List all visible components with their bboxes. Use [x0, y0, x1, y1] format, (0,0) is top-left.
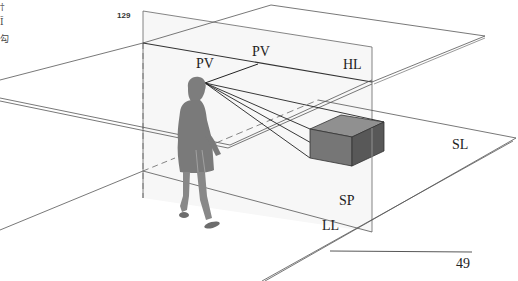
label-pv-top: PV	[252, 45, 270, 59]
margin-glyph-2: Ī	[0, 17, 4, 27]
label-sp: SP	[339, 194, 355, 208]
margin-glyph-1: †	[0, 2, 5, 12]
horizon-plane-right-edge	[372, 36, 485, 82]
figure-number: 129	[117, 11, 130, 20]
horizon-plane-left-edge	[0, 43, 143, 80]
label-hl: HL	[343, 58, 362, 72]
perspective-diagram: 129 † Ī 勾 PV PV HL SL SP LL 49	[0, 0, 518, 281]
label-pv-left: PV	[196, 57, 214, 71]
diagram-canvas	[0, 0, 518, 281]
label-ll: LL	[322, 219, 339, 233]
margin-glyph-3: 勾	[0, 32, 9, 45]
page-rule	[330, 251, 472, 252]
label-sl: SL	[452, 138, 468, 152]
ground-plane-left-edge	[0, 171, 143, 230]
page-number: 49	[456, 256, 470, 272]
